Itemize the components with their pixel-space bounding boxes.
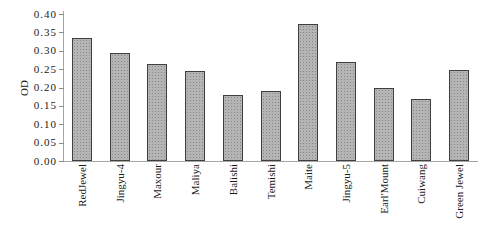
y-tick-mark xyxy=(59,161,64,162)
x-category-label: Jingyu-5 xyxy=(339,164,353,230)
x-category-label: Maite xyxy=(301,164,315,230)
y-tick-label: 0.30 xyxy=(15,44,57,57)
bar xyxy=(261,91,281,161)
bar xyxy=(298,24,318,161)
x-category-label: Temishi xyxy=(264,164,278,230)
y-tick-label: 0.25 xyxy=(15,63,57,76)
y-tick-label: 0.35 xyxy=(15,26,57,39)
bar xyxy=(110,53,130,161)
y-tick-label: 0.00 xyxy=(15,155,57,168)
x-category-label: Green Jewel xyxy=(452,164,466,230)
y-tick-label: 0.10 xyxy=(15,118,57,131)
bar xyxy=(449,70,469,161)
bar xyxy=(185,71,205,161)
y-tick-label: 0.40 xyxy=(15,8,57,21)
bar xyxy=(147,64,167,161)
x-category-label: Maxour xyxy=(150,164,164,230)
x-category-label: Cuiwang xyxy=(414,164,428,230)
bar xyxy=(411,99,431,161)
y-tick-mark xyxy=(59,106,64,107)
x-category-label: Jingyu-4 xyxy=(113,164,127,230)
y-tick-mark xyxy=(59,14,64,15)
y-tick-label: 0.05 xyxy=(15,136,57,149)
y-tick-mark xyxy=(59,143,64,144)
bar-chart-figure: OD 0.000.050.100.150.200.250.300.350.40R… xyxy=(0,0,485,230)
y-tick-mark xyxy=(59,88,64,89)
y-tick-mark xyxy=(59,32,64,33)
bar xyxy=(374,88,394,162)
x-category-label: Maliya xyxy=(188,164,202,230)
y-tick-mark xyxy=(59,124,64,125)
bar xyxy=(72,38,92,161)
y-axis-line xyxy=(63,11,64,162)
y-tick-mark xyxy=(59,51,64,52)
y-tick-label: 0.15 xyxy=(15,99,57,112)
bar xyxy=(336,62,356,161)
x-category-label: Earl'Mount xyxy=(377,164,391,230)
bar xyxy=(223,95,243,161)
y-tick-label: 0.20 xyxy=(15,81,57,94)
x-category-label: RedJewel xyxy=(75,164,89,230)
y-tick-mark xyxy=(59,69,64,70)
x-category-label: Balishi xyxy=(226,164,240,230)
x-axis-baseline xyxy=(63,161,478,162)
